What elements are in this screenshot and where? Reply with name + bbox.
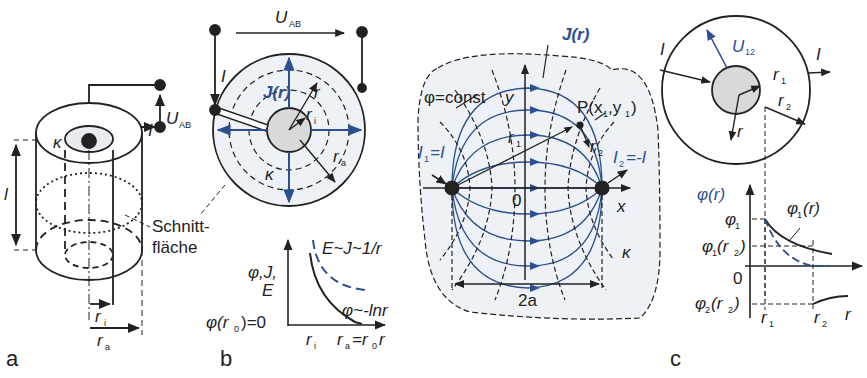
svg-text:(r: (r (711, 294, 724, 313)
svg-text:a: a (341, 158, 346, 168)
svg-text:2: 2 (734, 248, 739, 258)
svg-text:φ(r: φ(r (206, 313, 230, 332)
svg-text:r: r (737, 122, 744, 141)
svg-text:AB: AB (289, 19, 301, 29)
svg-text:2: 2 (619, 159, 624, 169)
svg-text:0: 0 (733, 269, 742, 288)
svg-text:1: 1 (516, 139, 521, 149)
current-label: I (148, 121, 153, 140)
svg-text:AB: AB (179, 120, 191, 130)
svg-text:r: r (379, 330, 386, 349)
phi-r-axis-label: φ(r) (697, 185, 725, 204)
svg-text:2: 2 (705, 305, 710, 315)
svg-text:r: r (845, 305, 852, 324)
svg-text:a: a (105, 342, 110, 352)
section-label-1: Schnitt- (152, 217, 210, 236)
svg-text:1: 1 (769, 319, 774, 329)
panel-b-graph-labels: E~J~1/r φ,J, E φ~-lnr φ(r 0 )=0 r i r a … (206, 239, 389, 371)
svg-text:=I: =I (430, 143, 445, 162)
panel-a-cylinder (14, 80, 165, 335)
panel-b-cross-section (200, 25, 367, 215)
current-density-label: J(r) (263, 83, 291, 102)
curve-phi-label: φ~-lnr (342, 301, 389, 320)
panel-c-graph-labels: φ(r) φ 1 φ 1 (r) φ 1 (r 2 ) 0 φ 2 (r 2 )… (670, 185, 852, 371)
svg-text:x: x (616, 197, 626, 216)
curve-E-label: E~J~1/r (322, 239, 383, 258)
svg-text:): ) (631, 98, 637, 117)
svg-text:φ,J,: φ,J, (248, 263, 277, 282)
svg-text:12: 12 (745, 47, 755, 57)
point-label: P(x (577, 98, 603, 117)
svg-text:1: 1 (781, 76, 786, 86)
panel-label-b: b (220, 346, 232, 371)
svg-text:r: r (337, 330, 344, 349)
panel-middle-field (418, 45, 660, 319)
svg-text:2: 2 (822, 319, 827, 329)
svg-text:2: 2 (786, 102, 791, 112)
svg-text:): ) (738, 237, 746, 256)
svg-text:r: r (814, 308, 821, 327)
svg-text:2: 2 (728, 305, 733, 315)
svg-text:i: i (104, 318, 106, 328)
svg-text:1: 1 (625, 109, 630, 119)
svg-text:0: 0 (512, 191, 521, 210)
svg-text:1: 1 (735, 221, 740, 231)
distance-label: 2a (518, 291, 537, 310)
svg-text:r: r (778, 91, 785, 110)
svg-text:I: I (660, 40, 665, 59)
svg-text:i: i (314, 116, 316, 126)
current-label: I (221, 67, 226, 86)
svg-text:r: r (773, 65, 780, 84)
diagram-figure: I U AB κ l Schnitt- fläche r i r a a (0, 0, 867, 378)
svg-text:1: 1 (797, 210, 802, 220)
r-outer-label: r (97, 331, 104, 350)
panel-label-c: c (670, 346, 681, 371)
svg-text:y: y (504, 88, 515, 107)
svg-text:0: 0 (372, 341, 377, 351)
voltage-label: U (732, 37, 745, 56)
svg-text:(r): (r) (803, 199, 820, 218)
svg-text:2: 2 (598, 148, 603, 158)
svg-text:)=0: )=0 (241, 313, 266, 332)
svg-text:r: r (306, 330, 313, 349)
voltage-label: U (166, 109, 179, 128)
panel-c-coax (660, 16, 830, 300)
length-label: l (4, 185, 9, 204)
svg-text:i: i (314, 341, 316, 351)
voltage-label: U (275, 8, 288, 27)
svg-text:I: I (816, 45, 821, 64)
phi-const-label: φ=const (424, 88, 486, 107)
svg-text:1: 1 (424, 154, 429, 164)
svg-text:E: E (262, 281, 274, 300)
section-label-2: fläche (152, 238, 197, 257)
svg-text:): ) (732, 294, 740, 313)
I2-label: I (613, 148, 618, 167)
panel-label-a: a (6, 346, 19, 371)
r-inner-label: r (95, 307, 102, 326)
svg-text:r: r (761, 308, 768, 327)
svg-text:(r: (r (717, 237, 730, 256)
current-density-label: J(r) (562, 25, 590, 44)
I1-label: I (418, 143, 423, 162)
svg-text:a: a (345, 341, 350, 351)
svg-text:=r: =r (352, 330, 369, 349)
svg-text:,y: ,y (608, 98, 622, 117)
svg-text:0: 0 (234, 324, 239, 334)
diagram-svg: I U AB κ l Schnitt- fläche r i r a a (0, 0, 867, 378)
svg-text:=-I: =-I (626, 148, 647, 167)
